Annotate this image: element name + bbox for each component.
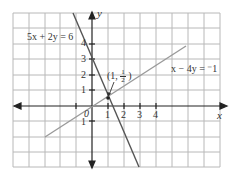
intersection-label: (1, 1 2 ) [107,69,132,84]
tick-x-4: 4 [153,110,158,120]
tick-x-3: 3 [137,110,142,120]
x-axis-arrow-left-icon [14,103,21,109]
tick-x-2: 2 [121,110,126,120]
equation-label-2: x − 4y = ⁻1 [171,64,217,74]
line-x-minus-4y-eq-neg1 [45,46,186,137]
tick-y-1: 1 [81,85,86,95]
fraction-one-half: 1 2 [120,69,126,84]
y-axis-label: y [97,8,102,19]
x-axis-label: x [217,110,222,121]
tick-x-1: 1 [105,110,110,120]
tick-y-4: 4 [81,38,86,48]
equation-label-1: 5x + 2y = 6 [27,32,73,42]
intersection-label-open: (1, [107,70,118,81]
intersection-label-close: ) [128,70,131,81]
tick-y-3: 3 [81,54,86,64]
tick-y-2: 2 [81,70,86,80]
origin-label: 0 [84,109,89,119]
coordinate-graph [0,0,232,175]
